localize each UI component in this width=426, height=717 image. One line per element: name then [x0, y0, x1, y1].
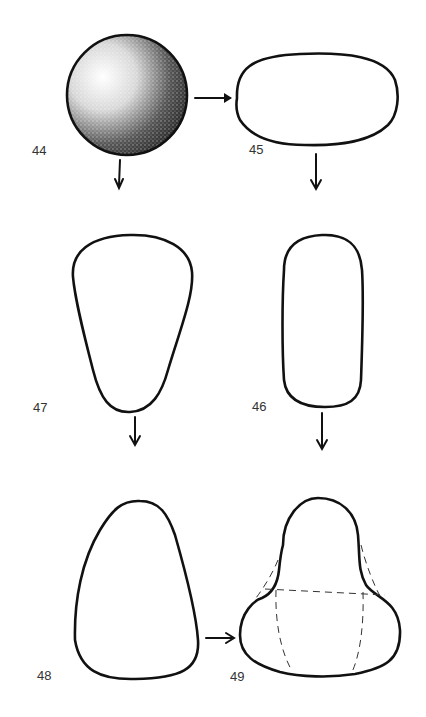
figure-label-49: 49 — [230, 669, 244, 684]
arrow-down-icon — [130, 417, 140, 445]
figure-49-bell — [240, 498, 400, 676]
arrow-down-icon — [311, 154, 321, 189]
figure-label-48: 48 — [37, 668, 51, 683]
figure-label-44: 44 — [32, 143, 46, 158]
figure-label-45: 45 — [249, 142, 263, 157]
figure-44-sphere — [67, 35, 187, 155]
arrow-right-icon — [195, 93, 232, 103]
figure-label-46: 46 — [252, 399, 266, 414]
figure-label-47: 47 — [33, 400, 47, 415]
arrow-down-icon — [317, 413, 327, 449]
figure-47-tapered — [73, 235, 192, 412]
figure-48-cone — [75, 501, 198, 679]
shape-diagram: 44 45 47 46 48 — [0, 0, 426, 717]
arrow-down-icon — [115, 160, 123, 188]
arrow-right-icon — [206, 633, 234, 643]
figure-46-elongated — [283, 235, 363, 407]
figure-45-oval — [236, 54, 397, 146]
